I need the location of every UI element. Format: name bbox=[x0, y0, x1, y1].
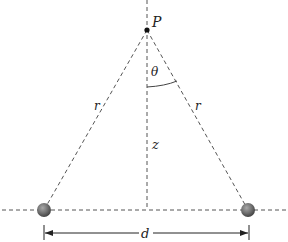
right-distance-line bbox=[147, 30, 248, 210]
label-z: z bbox=[151, 137, 159, 152]
label-r-right: r bbox=[195, 99, 202, 113]
right-charge-sphere bbox=[241, 203, 255, 217]
diagram-canvas: P θ r r z d bbox=[0, 0, 288, 242]
label-d: d bbox=[141, 226, 149, 241]
left-charge-sphere bbox=[37, 203, 51, 217]
label-theta: θ bbox=[151, 65, 159, 79]
angle-arc bbox=[147, 81, 177, 87]
label-r-left: r bbox=[94, 99, 101, 113]
point-p-dot bbox=[144, 27, 149, 32]
left-distance-line bbox=[44, 30, 147, 210]
label-p: P bbox=[151, 14, 162, 30]
